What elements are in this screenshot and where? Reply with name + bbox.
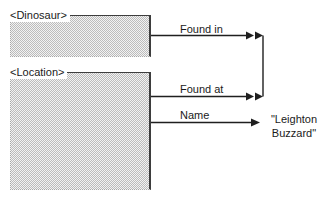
value-line-1: "Leighton xyxy=(263,112,325,126)
name-label: Name xyxy=(180,109,209,121)
found-in-label: Found in xyxy=(180,23,223,35)
diagram-canvas: <Dinosaur> <Location> Found in Found at … xyxy=(0,0,328,199)
value-line-2: Buzzard" xyxy=(263,126,325,140)
value-text: "Leighton Buzzard" xyxy=(263,112,325,140)
found-at-label: Found at xyxy=(180,83,223,95)
arrows-layer xyxy=(0,0,328,199)
